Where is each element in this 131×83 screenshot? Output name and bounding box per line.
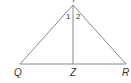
angle-label-2: 2 — [76, 13, 80, 21]
vertex-label-z: Z — [70, 68, 76, 78]
side-apex-r — [73, 5, 126, 64]
vertex-label-r: R — [122, 68, 129, 78]
angle-label-1: 1 — [66, 13, 70, 21]
vertex-label-q: Q — [14, 68, 22, 78]
vertex-label-apex: Y — [71, 0, 76, 4]
